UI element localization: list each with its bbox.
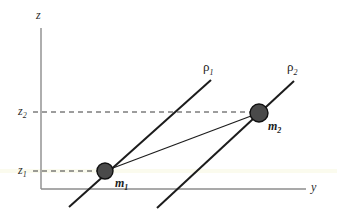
- mass-label-m2-main: m: [268, 119, 277, 133]
- mass-label-m1-sub: 1: [124, 183, 128, 192]
- diagram-canvas: [0, 0, 337, 212]
- tick-label-z2-sub: 2: [23, 111, 27, 120]
- ray-label-rho2-sub: 2: [294, 68, 298, 77]
- tick-label-z1: z1: [18, 164, 27, 179]
- rho1-line: [69, 80, 211, 207]
- y-axis-label: y: [311, 181, 316, 193]
- ray-label-rho1: ρ1: [203, 60, 214, 77]
- mass-label-m1-main: m: [115, 176, 124, 190]
- tick-label-z1-sub: 1: [23, 170, 27, 179]
- mass-m2-marker: [250, 104, 268, 122]
- mass-label-m2: m2: [268, 120, 281, 135]
- tick-label-z2: z2: [18, 105, 27, 120]
- mass-label-m1: m1: [115, 177, 128, 192]
- physics-diagram: z y z2 z1 m1 m2 ρ1 ρ2: [0, 0, 337, 212]
- mass-m1-marker: [97, 163, 113, 179]
- ray-label-rho2: ρ2: [287, 60, 298, 77]
- z-axis-label: z: [36, 9, 41, 21]
- m1-m2-connector-line: [105, 113, 259, 171]
- mass-label-m2-sub: 2: [277, 126, 281, 135]
- ray-label-rho1-sub: 1: [210, 68, 214, 77]
